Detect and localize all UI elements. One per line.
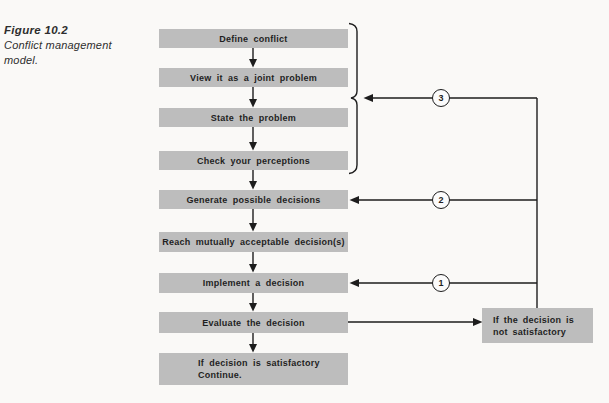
- arrow-down-icon: [249, 264, 257, 273]
- flow-arrow-step8-step9: [249, 333, 257, 353]
- arrow-evaluate-to-not-satisfactory: [348, 318, 483, 326]
- feedback-arrow-3-to-brace: [364, 94, 538, 102]
- arrow-down-icon: [249, 181, 257, 190]
- flow-arrow-step2-step3: [249, 87, 257, 108]
- flow-arrow-step5-step6: [249, 209, 257, 232]
- arrow-down-icon: [249, 59, 257, 68]
- step-implement-decision: Implement a decision: [159, 273, 348, 293]
- loop-marker-1: 1: [432, 274, 450, 292]
- loop-marker-2: 2: [432, 191, 450, 209]
- side-box-line2: not satisfactory: [493, 326, 593, 338]
- side-box-line1: If the decision is: [493, 314, 593, 326]
- arrow-left-icon: [350, 279, 360, 287]
- step-label: Check your perceptions: [197, 156, 310, 166]
- step-reach-decision: Reach mutually acceptable decision(s): [159, 232, 348, 252]
- arrow-left-icon: [350, 196, 360, 204]
- loop-marker-number: 2: [438, 195, 443, 205]
- step-evaluate-decision: Evaluate the decision: [159, 312, 348, 333]
- step-generate-decisions: Generate possible decisions: [159, 190, 348, 209]
- flow-arrow-step6-step7: [249, 252, 257, 273]
- arrow-down-icon: [249, 223, 257, 232]
- step-define-conflict: Define conflict: [159, 29, 348, 48]
- group-brace-steps1-4: [349, 24, 357, 174]
- step-label: Implement a decision: [203, 278, 305, 288]
- arrow-down-icon: [249, 303, 257, 312]
- arrow-left-icon: [364, 94, 374, 102]
- step-label-line2: Continue.: [198, 369, 242, 381]
- step-check-perceptions: Check your perceptions: [159, 151, 348, 170]
- arrow-down-icon: [249, 344, 257, 353]
- step-label: View it as a joint problem: [190, 73, 317, 83]
- flow-arrow-step3-step4: [249, 127, 257, 151]
- step-state-problem: State the problem: [159, 108, 348, 127]
- step-label: Evaluate the decision: [202, 318, 304, 328]
- step-label: Define conflict: [219, 34, 287, 44]
- step-label: State the problem: [211, 113, 296, 123]
- arrow-down-icon: [249, 99, 257, 108]
- loop-marker-number: 3: [438, 93, 443, 103]
- step-continue-if-satisfactory: If decision is satisfactory Continue.: [159, 353, 348, 385]
- flow-arrow-step1-step2: [249, 48, 257, 68]
- loop-marker-number: 1: [438, 278, 443, 288]
- loop-marker-3: 3: [432, 89, 450, 107]
- arrow-down-icon: [249, 142, 257, 151]
- box-not-satisfactory: If the decision is not satisfactory: [482, 308, 593, 343]
- step-label: Reach mutually acceptable decision(s): [162, 237, 344, 247]
- flow-arrow-step4-step5: [249, 170, 257, 190]
- conflict-management-model-diagram: Figure 10.2 Conflict management model.: [0, 0, 609, 403]
- step-label-line1: If decision is satisfactory: [198, 357, 320, 369]
- flow-arrow-step7-step8: [249, 293, 257, 312]
- step-view-joint-problem: View it as a joint problem: [159, 68, 348, 87]
- step-label: Generate possible decisions: [187, 195, 321, 205]
